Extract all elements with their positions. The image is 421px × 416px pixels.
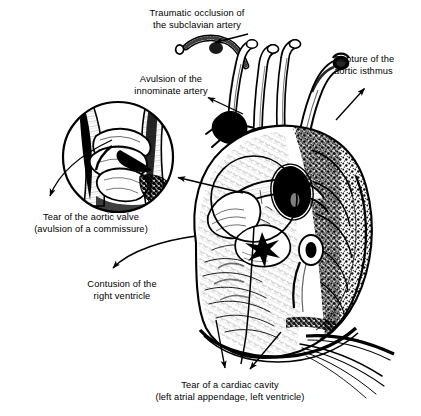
label-contusion-right-ventricle: Contusion of the right ventricle: [64, 279, 180, 302]
leader-isthmus: [336, 89, 365, 121]
label-tear-aortic-valve: Tear of the aortic valve (avulsion of a …: [9, 212, 173, 235]
aortic-valve-inset: [63, 102, 175, 212]
label-avulsion-innominate: Avulsion of the innominate artery: [104, 74, 238, 97]
label-traumatic-occlusion: Traumatic occlusion of the subclavian ar…: [121, 8, 273, 31]
label-tear-cardiac-cavity: Tear of a cardiac cavity (left atrial ap…: [131, 380, 329, 403]
heart-body: [190, 110, 394, 398]
left-common-carotid: [281, 40, 301, 134]
figure-canvas: Traumatic occlusion of the subclavian ar…: [0, 0, 421, 416]
leader-right-ventricle: [113, 236, 196, 268]
label-rupture-isthmus: Rupture of the aortic isthmus: [334, 54, 420, 77]
